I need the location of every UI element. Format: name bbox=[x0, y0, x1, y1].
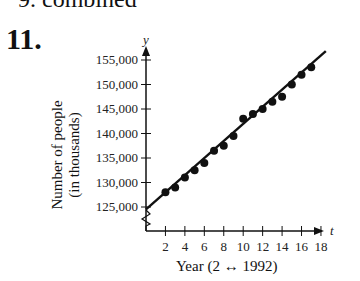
svg-text:8: 8 bbox=[221, 239, 228, 254]
svg-text:145,000: 145,000 bbox=[96, 101, 138, 116]
svg-text:6: 6 bbox=[201, 239, 208, 254]
scatter-chart: yt125,000130,000135,000140,000145,000150… bbox=[0, 0, 360, 281]
svg-text:150,000: 150,000 bbox=[96, 77, 138, 92]
svg-text:16: 16 bbox=[295, 239, 309, 254]
svg-text:12: 12 bbox=[256, 239, 269, 254]
svg-text:18: 18 bbox=[314, 239, 327, 254]
svg-text:140,000: 140,000 bbox=[96, 126, 138, 141]
svg-text:125,000: 125,000 bbox=[96, 199, 138, 214]
svg-text:2: 2 bbox=[162, 239, 169, 254]
svg-text:10: 10 bbox=[237, 239, 250, 254]
svg-text:130,000: 130,000 bbox=[96, 175, 138, 190]
svg-text:y: y bbox=[141, 32, 149, 47]
svg-text:14: 14 bbox=[276, 239, 290, 254]
svg-text:4: 4 bbox=[182, 239, 189, 254]
svg-text:155,000: 155,000 bbox=[96, 52, 138, 67]
svg-text:135,000: 135,000 bbox=[96, 150, 138, 165]
svg-text:t: t bbox=[330, 223, 334, 238]
